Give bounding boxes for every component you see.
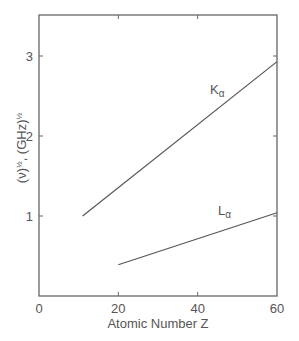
chart: KαLα 0204060 123 Atomic Number Z (ν)½, (… [0, 0, 299, 341]
series-label-l: Lα [218, 203, 231, 220]
x-tick-label: 20 [111, 301, 125, 316]
series-line-k [83, 62, 277, 216]
x-tick-label: 40 [190, 301, 204, 316]
y-tick-label: 1 [26, 209, 33, 224]
series-labels: KαLα [210, 82, 231, 220]
series-line-l [118, 213, 277, 265]
y-tick-label: 3 [26, 49, 33, 64]
x-tick-labels: 0204060 [35, 301, 284, 316]
x-tick-label: 0 [35, 301, 42, 316]
y-axis-title: (ν)½, (GHz)½ [14, 112, 29, 183]
x-tick-label: 60 [270, 301, 284, 316]
series-lines [83, 62, 277, 265]
series-label-k: Kα [210, 82, 225, 99]
x-axis-title: Atomic Number Z [107, 316, 208, 331]
